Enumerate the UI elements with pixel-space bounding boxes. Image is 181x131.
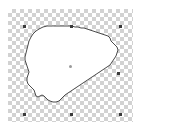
handle-bottom-right[interactable]	[119, 113, 122, 116]
shape-selection-canvas[interactable]	[0, 0, 181, 131]
center-anchor-point[interactable]	[69, 65, 72, 68]
handle-top-right[interactable]	[119, 25, 122, 28]
handle-top-center[interactable]	[70, 25, 73, 28]
selection-overlay	[0, 0, 181, 131]
handle-top-left[interactable]	[23, 25, 26, 28]
handle-bottom-center[interactable]	[70, 113, 73, 116]
handle-bottom-left[interactable]	[23, 113, 26, 116]
handle-middle-right[interactable]	[117, 72, 120, 75]
